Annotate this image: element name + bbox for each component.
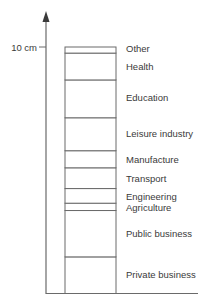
segment-label-manufacture: Manufacture xyxy=(126,154,179,165)
segment-label-other: Other xyxy=(126,43,150,54)
bar-segment-education xyxy=(65,80,116,118)
y-axis-tick-label: 10 cm xyxy=(11,42,37,53)
bar-segment-health xyxy=(65,53,116,80)
stacked-bar-diagram: 10 cm Private businessPublic businessAgr… xyxy=(0,0,221,302)
bar-segment-leisure-industry xyxy=(65,118,116,151)
segment-label-engineering: Engineering xyxy=(126,191,177,202)
y-axis-arrow-icon xyxy=(43,11,50,22)
segment-label-leisure-industry: Leisure industry xyxy=(126,128,193,139)
segment-label-agriculture: Agriculture xyxy=(126,202,171,213)
bar-segment-public-business xyxy=(65,211,116,257)
bar-segment-other xyxy=(65,47,116,53)
bar-segment-engineering xyxy=(65,189,116,204)
bar-segment-agriculture xyxy=(65,203,116,210)
bar-segment-manufacture xyxy=(65,151,116,168)
segment-label-health: Health xyxy=(126,61,153,72)
segment-label-private-business: Private business xyxy=(126,269,196,280)
segment-label-education: Education xyxy=(126,92,168,103)
bar-segment-private-business xyxy=(65,257,116,294)
segment-label-transport: Transport xyxy=(126,173,167,184)
segment-label-public-business: Public business xyxy=(126,228,192,239)
bar-segment-transport xyxy=(65,168,116,189)
